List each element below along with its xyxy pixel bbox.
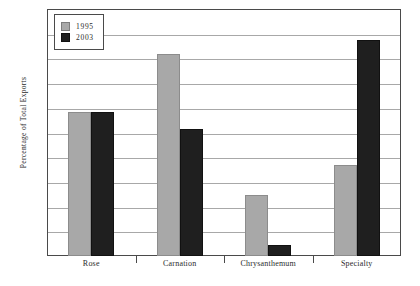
bar-rose-2003: [91, 112, 114, 256]
legend-label-1995: 1995: [76, 22, 94, 31]
legend-item-1995: 1995: [61, 22, 94, 31]
bar-group: [334, 9, 380, 256]
legend-label-2003: 2003: [76, 33, 94, 42]
bar-group: [245, 9, 291, 256]
bar-specialty-2003: [357, 40, 380, 256]
x-tick-mark: [224, 256, 225, 263]
x-tick-mark: [313, 256, 314, 263]
bar-chrysanthemum-2003: [268, 245, 291, 256]
x-tick-label-specialty: Specialty: [341, 259, 373, 268]
chart-legend: 1995 2003: [54, 14, 104, 50]
x-tick-mark: [136, 256, 137, 263]
legend-item-2003: 2003: [61, 33, 94, 42]
legend-swatch-2003: [61, 33, 70, 42]
x-tick-label-carnation: Carnation: [163, 259, 196, 268]
legend-swatch-1995: [61, 22, 70, 31]
x-tick-label-rose: Rose: [83, 259, 100, 268]
bar-specialty-1995: [334, 165, 357, 256]
y-axis-title: Percentage of Total Exports: [19, 48, 28, 198]
bar-rose-1995: [68, 112, 91, 256]
x-tick-label-chrysanthemum: Chrysanthemum: [241, 259, 296, 268]
bar-group: [157, 9, 203, 256]
bar-chart: Percentage of Total Exports 051015202530…: [0, 0, 420, 286]
bar-chrysanthemum-1995: [245, 195, 268, 256]
bar-carnation-1995: [157, 54, 180, 256]
bar-carnation-2003: [180, 129, 203, 256]
